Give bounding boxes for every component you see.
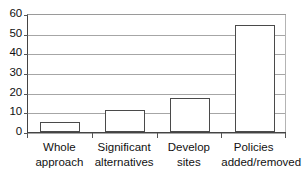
x-axis-tick-mark — [221, 133, 222, 138]
x-axis-tick-mark — [92, 133, 93, 138]
x-axis-tick-mark — [157, 133, 158, 138]
x-axis-category-label: Policiesadded/removed — [221, 140, 286, 169]
y-axis-tick-label: 60 — [0, 8, 22, 20]
x-axis-category-label-line: Develop — [157, 140, 222, 155]
x-axis-category-label-line: Policies — [221, 140, 286, 155]
x-axis-tick-mark — [27, 133, 28, 138]
y-axis-tick-label: 30 — [0, 67, 22, 79]
y-axis-tick-label: 50 — [0, 28, 22, 40]
y-axis-tick-label: 10 — [0, 107, 22, 119]
y-axis-tick-mark — [24, 35, 28, 36]
y-axis-tick-label: 0 — [0, 126, 22, 138]
x-axis-tick-mark — [285, 133, 286, 138]
bars-layer — [28, 15, 286, 132]
bar — [235, 25, 275, 132]
y-axis-tick-labels: 0102030405060 — [0, 0, 22, 196]
x-axis-category-label: Wholeapproach — [27, 140, 92, 169]
y-axis-tick-mark — [24, 54, 28, 55]
bar — [170, 98, 210, 132]
x-axis-category-labels: WholeapproachSignificantalternativesDeve… — [27, 140, 286, 192]
x-axis-category-label-line: added/removed — [221, 155, 286, 170]
bar-chart: 0102030405060 WholeapproachSignificantal… — [0, 0, 302, 196]
y-axis-tick-mark — [24, 113, 28, 114]
y-axis-tick-mark — [24, 15, 28, 16]
x-axis — [27, 132, 286, 133]
bar — [105, 110, 145, 132]
y-axis-tick-mark — [24, 74, 28, 75]
x-axis-category-label-line: Significant — [92, 140, 157, 155]
y-axis-tick-label: 20 — [0, 87, 22, 99]
x-axis-category-label-line: Whole — [27, 140, 92, 155]
bar — [40, 122, 80, 132]
x-axis-category-label-line: alternatives — [92, 155, 157, 170]
y-axis-tick-label: 40 — [0, 48, 22, 60]
y-axis-tick-mark — [24, 94, 28, 95]
x-axis-category-label-line: approach — [27, 155, 92, 170]
x-axis-category-label: Significantalternatives — [92, 140, 157, 169]
x-axis-category-label: Developsites — [157, 140, 222, 169]
plot-area — [27, 14, 286, 132]
x-axis-category-label-line: sites — [157, 155, 222, 170]
